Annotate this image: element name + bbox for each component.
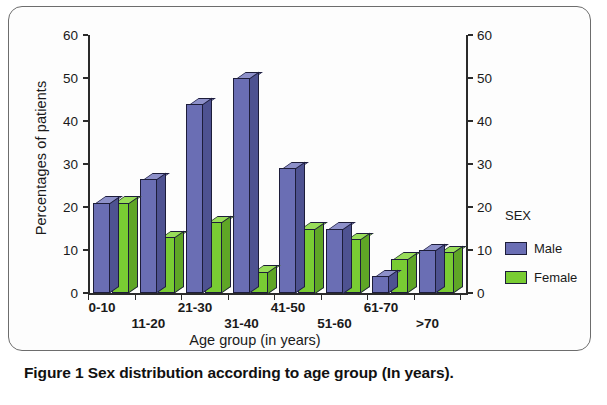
bar-side-face [175,231,184,293]
bar-side-face [203,97,212,292]
x-axis-category-label: 31-40 [209,317,275,331]
bar-51-60-male [326,229,343,294]
bar-side-face [315,222,324,293]
bar-front-face [419,250,436,293]
x-axis-tick [414,294,415,300]
legend-item-female: Female [505,270,600,285]
x-axis-category-label: 11-20 [116,317,182,331]
x-axis-tick [460,294,461,300]
bar-41-50-male [279,168,296,293]
legend-title: SEX [505,208,600,223]
chart-plot-area: Percentages of patients Age group (in ye… [0,0,607,360]
bar-0-10-male [93,203,110,293]
legend-label-female: Female [534,270,577,285]
chart-legend: SEX MaleFemale [505,208,600,299]
bar-front-face [326,229,343,294]
bar-61-70-male [372,276,389,293]
bar-front-face [93,203,110,293]
x-axis-tick [228,294,229,300]
figure-caption: Figure 1 Sex distribution according to a… [24,364,594,382]
bar-11-20-male [140,179,157,293]
bar-front-face [140,179,157,293]
x-axis-category-label: 0-10 [69,301,135,315]
bar-side-face [222,216,231,293]
legend-swatch-female [505,271,527,284]
bar-side-face [296,162,305,293]
legend-item-male: Male [505,241,600,256]
x-axis-tick [135,294,136,300]
x-axis-category-label: 41-50 [255,301,321,315]
bar-front-face [279,168,296,293]
bar-gt70-male [419,250,436,293]
bar-31-40-male [233,78,250,293]
bar-side-face [361,233,370,293]
bar-side-face [129,196,138,293]
bar-front-face [372,276,389,293]
bar-side-face [436,244,445,293]
legend-swatch-male [505,242,527,255]
bar-side-face [268,265,277,293]
x-axis-category-label: 61-70 [348,301,414,315]
x-axis-category-label: 21-30 [162,301,228,315]
bar-front-face [233,78,250,293]
legend-label-male: Male [534,241,562,256]
bar-21-30-male [186,104,203,293]
x-axis-category-label: >70 [395,317,461,331]
x-axis-tick [321,294,322,300]
bar-side-face [157,173,166,293]
bar-side-face [250,72,259,293]
bar-side-face [110,196,119,293]
bar-side-face [343,222,352,293]
x-axis-category-label: 51-60 [302,317,368,331]
legend-entries: MaleFemale [505,241,600,285]
bar-side-face [454,246,463,293]
bar-front-face [186,104,203,293]
bar-side-face [408,252,417,293]
